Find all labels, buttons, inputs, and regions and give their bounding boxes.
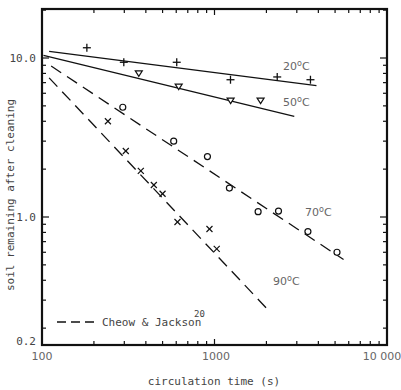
marker-triangle-down	[135, 71, 142, 77]
marker-circle	[334, 249, 340, 255]
marker-plus	[120, 58, 128, 66]
marker-circle	[276, 208, 282, 214]
marker-triangle-down	[227, 98, 234, 104]
marker-cross	[123, 148, 129, 154]
y-tick-label: 10.0	[10, 52, 37, 65]
marker-cross	[206, 226, 212, 232]
marker-plus	[173, 58, 181, 66]
fit-lines	[43, 51, 343, 312]
marker-cross	[214, 246, 220, 252]
x-axis-title: circulation time (s)	[148, 375, 280, 388]
marker-circle	[255, 209, 261, 215]
fit-line-20	[49, 51, 316, 85]
marker-cross	[174, 219, 180, 225]
marker-cross	[160, 191, 166, 197]
marker-circle	[120, 104, 126, 110]
marker-cross	[105, 118, 111, 124]
marker-cross	[138, 168, 144, 174]
y-tick-label: 0.2	[16, 335, 36, 348]
series-label-20: 20oC	[283, 59, 310, 73]
series-label-50: 50oC	[283, 95, 310, 109]
fit-line-50	[43, 55, 294, 116]
plot-frame	[42, 9, 387, 345]
axis-ticks	[42, 9, 387, 345]
marker-cross	[151, 182, 157, 188]
data-markers	[83, 44, 340, 256]
series-label-90: 90oC	[273, 274, 300, 288]
fit-line-90	[49, 78, 271, 313]
series-label-70: 70oC	[305, 205, 332, 219]
marker-circle	[305, 229, 311, 235]
x-tick-label: 10 000	[363, 350, 401, 363]
x-tick-label: 1000	[202, 350, 230, 363]
y-axis-title: soil remaining after cleaning	[4, 99, 17, 291]
plot-border	[42, 9, 387, 345]
legend-label: Cheow & Jackson	[102, 316, 201, 329]
marker-circle	[226, 185, 232, 191]
legend-ref: 20	[194, 309, 205, 319]
marker-triangle-down	[257, 98, 264, 104]
marker-plus	[226, 76, 234, 84]
y-tick-label: 1.0	[16, 211, 36, 224]
marker-plus	[83, 44, 91, 52]
x-tick-label: 100	[32, 350, 53, 363]
marker-circle	[171, 138, 177, 144]
marker-circle	[204, 154, 210, 160]
chart: 10.01.00.2100100010 000circulation time …	[0, 0, 401, 390]
marker-plus	[306, 76, 314, 84]
chart-text: 10.01.00.2100100010 000circulation time …	[4, 52, 401, 388]
